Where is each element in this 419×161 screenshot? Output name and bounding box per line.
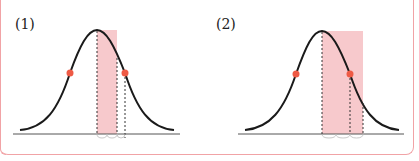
panel-2-graph xyxy=(238,31,404,138)
inflection-point-right xyxy=(347,71,354,78)
inflection-point-right xyxy=(122,70,129,77)
inflection-point-left xyxy=(67,70,74,77)
shaded-area xyxy=(322,31,363,134)
panel-1-graph xyxy=(13,30,180,138)
brace-marks xyxy=(322,134,363,138)
brace-marks xyxy=(97,134,125,138)
normal-curves-diagram xyxy=(0,0,419,161)
inflection-point-left xyxy=(293,71,300,78)
